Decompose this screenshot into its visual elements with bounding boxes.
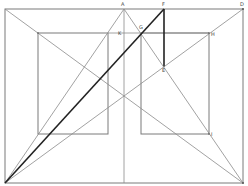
label-d: D: [240, 2, 244, 7]
label-f: F: [162, 2, 165, 7]
line-a-br: [124, 9, 243, 183]
label-i: I: [211, 132, 212, 137]
label-a: A: [121, 2, 124, 7]
point-i: [208, 133, 210, 135]
label-e: E: [162, 68, 165, 73]
point-d: [242, 8, 244, 10]
bold-line-f-bl: [5, 9, 164, 183]
point-k: [37, 32, 39, 34]
point-br: [242, 182, 244, 184]
label-h: H: [211, 32, 215, 37]
label-k: K: [118, 31, 121, 36]
line-a-bl: [5, 9, 124, 183]
point-h: [208, 32, 210, 34]
geometric-diagram: [0, 0, 248, 186]
label-g: G: [139, 25, 143, 30]
